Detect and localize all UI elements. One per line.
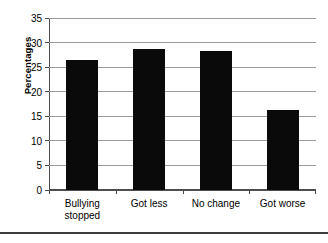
bar [133,49,165,190]
bar [66,60,98,190]
y-tick-mark [45,18,49,19]
y-tick-label: 35 [12,13,42,24]
y-tick-mark [45,91,49,92]
x-tick-mark [49,189,50,194]
bottom-divider [0,232,328,234]
gridline [49,18,316,19]
x-tick-mark [116,189,117,194]
y-tick-label: 15 [12,111,42,122]
y-tick-label: 30 [12,37,42,48]
x-tick-label: No change [183,198,250,210]
bar-chart-figure: Percentages 05101520253035 Bullyingstopp… [0,0,328,243]
y-tick-mark [45,140,49,141]
x-tick-label: Got worse [249,198,316,210]
x-tick-label: Bullyingstopped [49,198,116,221]
x-tick-label-line: stopped [49,210,116,222]
x-tick-label-line: Got less [116,198,183,210]
y-tick-label: 20 [12,86,42,97]
x-tick-mark [315,189,316,194]
x-tick-label-line: Bullying [49,198,116,210]
y-tick-mark [45,165,49,166]
y-tick-mark [45,42,49,43]
y-tick-label: 5 [12,160,42,171]
y-tick-mark [45,116,49,117]
y-tick-label: 25 [12,62,42,73]
x-tick-mark [249,189,250,194]
bar [200,51,232,190]
x-tick-mark [183,189,184,194]
gridline [49,42,316,43]
y-tick-label: 0 [12,185,42,196]
y-tick-mark [45,67,49,68]
x-tick-label-line: No change [183,198,250,210]
plot-area: 05101520253035 [49,18,316,190]
x-tick-label-line: Got worse [249,198,316,210]
bar [267,110,299,190]
y-tick-label: 10 [12,135,42,146]
x-tick-label: Got less [116,198,183,210]
